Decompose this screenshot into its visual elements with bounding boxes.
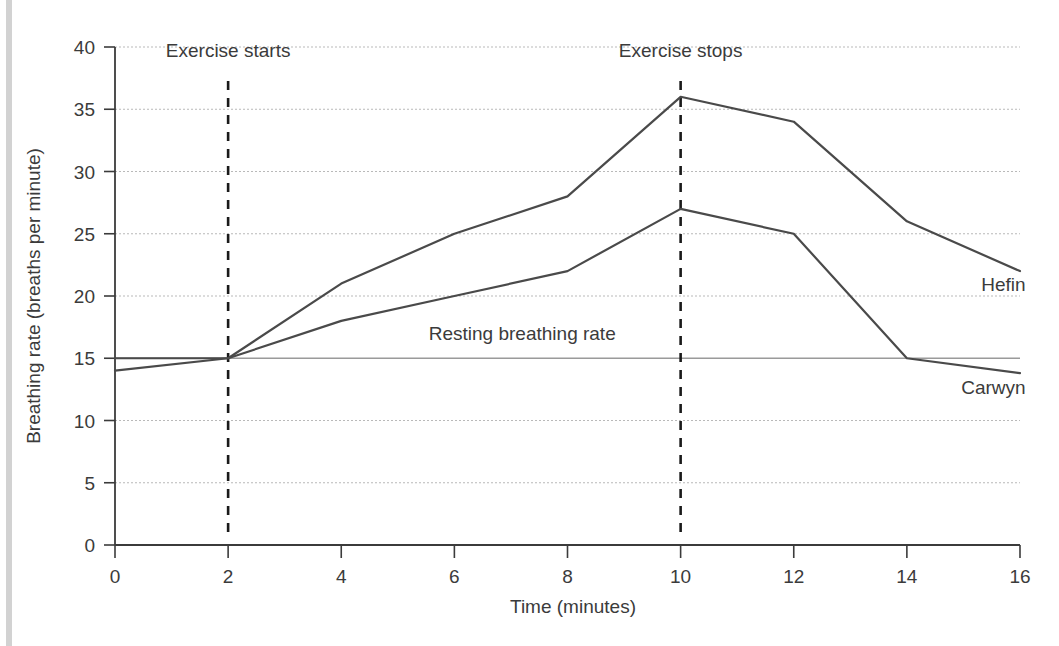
breathing-rate-chart: 0510152025303540 0246810121416 Exercise …: [0, 0, 1059, 646]
y-tick-label-35: 35: [74, 99, 95, 120]
event-lines-group: [228, 81, 681, 540]
y-tick-label-0: 0: [84, 535, 95, 556]
y-tick-labels-group: 0510152025303540: [74, 37, 95, 556]
y-tick-label-25: 25: [74, 224, 95, 245]
x-axis-title: Time (minutes): [510, 596, 636, 617]
x-tick-label-2: 2: [223, 566, 234, 587]
x-tick-label-10: 10: [670, 566, 691, 587]
x-tick-label-12: 12: [783, 566, 804, 587]
annotation-carwyn: Carwyn: [961, 377, 1025, 398]
y-tick-label-10: 10: [74, 411, 95, 432]
figure-root: 0510152025303540 0246810121416 Exercise …: [0, 0, 1059, 646]
x-tick-label-6: 6: [449, 566, 460, 587]
x-tick-label-8: 8: [562, 566, 573, 587]
annotation-hefin: Hefin: [981, 274, 1025, 295]
annotation-exercise-stops: Exercise stops: [619, 40, 743, 61]
x-tick-label-0: 0: [110, 566, 121, 587]
axes-group: [104, 47, 1020, 558]
x-tick-labels-group: 0246810121416: [110, 566, 1031, 587]
annotation-resting-breathing-rate: Resting breathing rate: [429, 323, 616, 344]
annotations-group: Exercise startsExercise stopsResting bre…: [166, 40, 1026, 398]
gridlines-group: [115, 47, 1020, 483]
x-tick-label-4: 4: [336, 566, 347, 587]
y-tick-label-5: 5: [84, 473, 95, 494]
y-tick-label-40: 40: [74, 37, 95, 58]
annotation-exercise-starts: Exercise starts: [166, 40, 291, 61]
y-axis-title: Breathing rate (breaths per minute): [23, 148, 44, 444]
x-tick-label-16: 16: [1009, 566, 1030, 587]
series-line-hefin: [115, 97, 1020, 358]
y-tick-label-15: 15: [74, 348, 95, 369]
y-tick-label-20: 20: [74, 286, 95, 307]
y-tick-label-30: 30: [74, 162, 95, 183]
x-tick-label-14: 14: [896, 566, 918, 587]
